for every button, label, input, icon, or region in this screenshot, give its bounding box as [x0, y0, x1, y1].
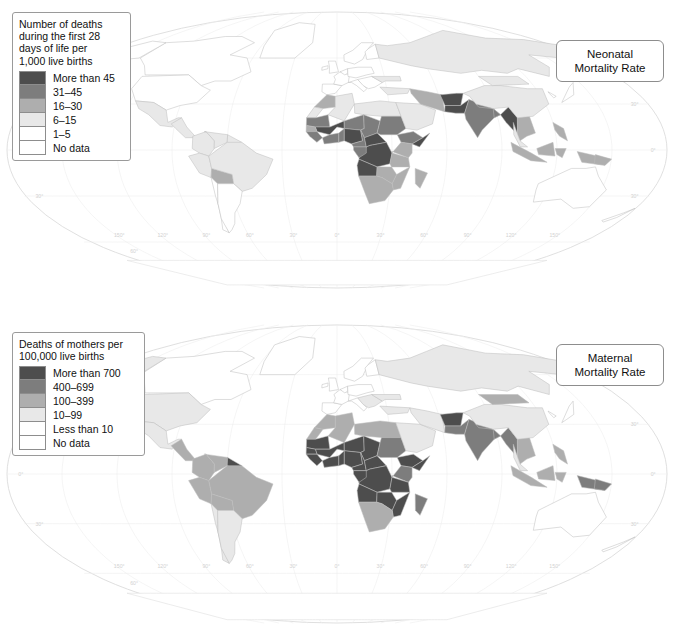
svg-text:30°: 30°: [290, 232, 298, 238]
legend-label: 31–45: [53, 85, 82, 99]
legend-label: 10–99: [53, 408, 82, 422]
svg-text:60°: 60°: [420, 232, 428, 238]
legend-swatch: [19, 113, 46, 127]
legend-neonatal: Number of deaths during the first 28 day…: [12, 12, 131, 161]
legend-row[interactable]: More than 45: [19, 71, 123, 85]
svg-text:60°: 60°: [246, 232, 254, 238]
legend-row[interactable]: 10–99: [19, 408, 137, 422]
legend-row[interactable]: More than 700: [19, 366, 137, 380]
svg-text:60°: 60°: [420, 563, 428, 569]
legend-label: More than 45: [53, 71, 115, 85]
legend-label: 100–399: [53, 394, 94, 408]
svg-text:0°: 0°: [651, 147, 656, 153]
legend-rows: More than 45 31–45 16–30 6–15 1–5 No dat…: [19, 71, 123, 155]
svg-text:30°: 30°: [35, 521, 43, 527]
svg-text:0°: 0°: [18, 471, 23, 477]
legend-row[interactable]: No data: [19, 436, 137, 450]
svg-text:120°: 120°: [157, 563, 168, 569]
svg-text:30°: 30°: [35, 193, 43, 199]
svg-text:30°: 30°: [631, 521, 639, 527]
map-panel-maternal: 150°120°90°60°30°0°30°60°90°120°150°60°3…: [0, 312, 674, 636]
svg-text:150°: 150°: [114, 232, 125, 238]
legend-row[interactable]: 1–5: [19, 127, 123, 141]
svg-text:30°: 30°: [631, 421, 639, 427]
legend-swatch: [19, 141, 46, 155]
svg-text:30°: 30°: [377, 232, 385, 238]
legend-label: 16–30: [53, 99, 82, 113]
legend-label: No data: [53, 436, 90, 450]
svg-text:150°: 150°: [549, 232, 560, 238]
svg-text:30°: 30°: [290, 563, 298, 569]
map-panel-neonatal: 150°120°90°60°30°0°30°60°90°120°150°60°3…: [0, 0, 674, 300]
legend-swatch: [19, 422, 46, 436]
map-title-maternal: Maternal Mortality Rate: [556, 344, 664, 386]
svg-text:0°: 0°: [651, 471, 656, 477]
legend-label: Less than 10: [53, 422, 113, 436]
legend-swatch: [19, 394, 46, 408]
legend-swatch: [19, 71, 46, 85]
svg-text:60°: 60°: [246, 563, 254, 569]
svg-text:60°: 60°: [130, 580, 138, 586]
legend-swatch: [19, 380, 46, 394]
legend-rows: More than 700 400–699 100–399 10–99 Less…: [19, 366, 137, 450]
legend-row[interactable]: 100–399: [19, 394, 137, 408]
legend-row[interactable]: 400–699: [19, 380, 137, 394]
legend-swatch: [19, 408, 46, 422]
legend-title: Number of deaths during the first 28 day…: [19, 18, 123, 67]
svg-text:90°: 90°: [464, 563, 472, 569]
svg-text:150°: 150°: [549, 563, 560, 569]
legend-label: 1–5: [53, 127, 71, 141]
svg-text:60°: 60°: [130, 248, 138, 254]
svg-text:90°: 90°: [202, 232, 210, 238]
svg-text:0°: 0°: [335, 563, 340, 569]
legend-label: No data: [53, 141, 90, 155]
legend-swatch: [19, 366, 46, 380]
svg-text:30°: 30°: [377, 563, 385, 569]
svg-text:0°: 0°: [335, 232, 340, 238]
legend-row[interactable]: Less than 10: [19, 422, 137, 436]
legend-row[interactable]: 16–30: [19, 99, 123, 113]
svg-text:90°: 90°: [202, 563, 210, 569]
legend-title: Deaths of mothers per 100,000 live birth…: [19, 338, 137, 362]
legend-label: 6–15: [53, 113, 76, 127]
svg-text:150°: 150°: [114, 563, 125, 569]
legend-swatch: [19, 436, 46, 450]
legend-swatch: [19, 127, 46, 141]
svg-text:30°: 30°: [631, 101, 639, 107]
svg-text:120°: 120°: [506, 232, 517, 238]
legend-maternal: Deaths of mothers per 100,000 live birth…: [12, 332, 145, 456]
svg-text:90°: 90°: [464, 232, 472, 238]
legend-row[interactable]: 6–15: [19, 113, 123, 127]
map-title-neonatal: Neonatal Mortality Rate: [556, 40, 664, 82]
legend-label: More than 700: [53, 366, 121, 380]
svg-text:30°: 30°: [631, 193, 639, 199]
svg-text:120°: 120°: [157, 232, 168, 238]
legend-row[interactable]: 31–45: [19, 85, 123, 99]
svg-text:120°: 120°: [506, 563, 517, 569]
legend-swatch: [19, 99, 46, 113]
legend-label: 400–699: [53, 380, 94, 394]
legend-row[interactable]: No data: [19, 141, 123, 155]
legend-swatch: [19, 85, 46, 99]
